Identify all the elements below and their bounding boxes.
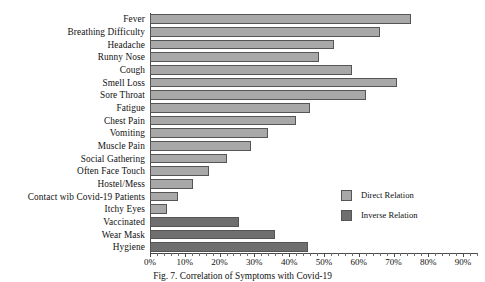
legend-label: Inverse Relation	[361, 210, 418, 220]
x-tick-minor	[240, 253, 241, 256]
category-label-row: Chest Pain	[0, 114, 148, 127]
category-axis-labels: FeverBreathing DifficultyHeadacheRunny N…	[0, 13, 148, 254]
x-tick-minor	[449, 253, 450, 256]
category-label-row: Smell Loss	[0, 76, 148, 89]
category-label-row: Itchy Eyes	[0, 203, 148, 216]
category-label-row: Vomiting	[0, 127, 148, 140]
x-tick-minor	[400, 253, 401, 256]
x-tick-label: 30%	[246, 257, 263, 267]
legend-swatch	[341, 190, 352, 201]
x-tick-minor	[435, 253, 436, 256]
bar-row	[150, 241, 477, 254]
bar	[150, 192, 178, 202]
bar-row	[150, 152, 477, 165]
x-tick-label: 70%	[385, 257, 402, 267]
category-label: Breathing Difficulty	[68, 27, 145, 37]
category-label-row: Fever	[0, 13, 148, 26]
x-tick-minor	[296, 253, 297, 256]
x-tick-minor	[233, 253, 234, 256]
category-label-row: Wear Mask	[0, 228, 148, 241]
bar	[150, 166, 209, 176]
category-label: Often Face Touch	[77, 166, 145, 176]
category-label-row: Hostel/Mess	[0, 178, 148, 191]
category-label: Vomiting	[110, 128, 145, 138]
category-label: Cough	[120, 65, 145, 75]
x-tick-minor	[282, 253, 283, 256]
category-label-row: Headache	[0, 38, 148, 51]
bar	[150, 27, 380, 37]
x-tick-label: 80%	[420, 257, 437, 267]
x-tick-label: 50%	[316, 257, 333, 267]
x-tick-minor	[331, 253, 332, 256]
x-tick-minor	[345, 253, 346, 256]
x-tick-minor	[338, 253, 339, 256]
x-tick-minor	[373, 253, 374, 256]
bar-row	[150, 64, 477, 77]
bar-row	[150, 102, 477, 115]
x-tick-minor	[414, 253, 415, 256]
x-tick-label: 20%	[211, 257, 228, 267]
category-label-row: Muscle Pain	[0, 140, 148, 153]
bar	[150, 90, 366, 100]
x-tick-minor	[199, 253, 200, 256]
legend-swatch	[341, 210, 352, 221]
bar	[150, 52, 319, 62]
category-label-row: Often Face Touch	[0, 165, 148, 178]
category-label: Hostel/Mess	[97, 179, 145, 189]
category-label: Contact wib Covid-19 Patients	[28, 192, 145, 202]
x-tick-label: 40%	[281, 257, 298, 267]
x-tick-label: 90%	[455, 257, 472, 267]
bar	[150, 14, 411, 24]
x-tick-minor	[268, 253, 269, 256]
x-tick-minor	[352, 253, 353, 256]
category-label: Fatigue	[116, 103, 145, 113]
bar	[150, 141, 251, 151]
bar	[150, 116, 296, 126]
category-label-row: Contact wib Covid-19 Patients	[0, 190, 148, 203]
bar	[150, 40, 334, 50]
bar	[150, 154, 227, 164]
bar-row	[150, 51, 477, 64]
legend-label: Direct Relation	[361, 190, 414, 200]
bar-row	[150, 140, 477, 153]
x-tick-minor	[303, 253, 304, 256]
bar	[150, 242, 308, 252]
category-label: Chest Pain	[104, 116, 145, 126]
x-tick-label: 0%	[144, 257, 156, 267]
legend-item: Direct Relation	[341, 185, 461, 205]
bar-row	[150, 13, 477, 26]
category-label: Headache	[108, 40, 145, 50]
x-tick-minor	[192, 253, 193, 256]
x-tick-minor	[275, 253, 276, 256]
x-tick-minor	[206, 253, 207, 256]
x-tick-minor	[421, 253, 422, 256]
figure-container: FeverBreathing DifficultyHeadacheRunny N…	[0, 0, 485, 282]
x-tick-minor	[261, 253, 262, 256]
category-label: Fever	[123, 14, 145, 24]
category-label-row: Social Gathering	[0, 152, 148, 165]
x-tick-minor	[227, 253, 228, 256]
bar	[150, 204, 167, 214]
bar	[150, 230, 275, 240]
figure-caption: Fig. 7. Correlation of Symptoms with Cov…	[0, 271, 485, 281]
category-label-row: Fatigue	[0, 102, 148, 115]
category-label-row: Breathing Difficulty	[0, 26, 148, 39]
x-tick-minor	[164, 253, 165, 256]
x-tick-minor	[456, 253, 457, 256]
category-label-row: Cough	[0, 64, 148, 77]
chart-legend: Direct RelationInverse Relation	[341, 185, 461, 225]
bar-row	[150, 89, 477, 102]
x-tick-label: 10%	[177, 257, 194, 267]
bar	[150, 179, 193, 189]
category-label-row: Vaccinated	[0, 216, 148, 229]
category-label: Itchy Eyes	[105, 204, 146, 214]
category-label: Muscle Pain	[98, 141, 145, 151]
category-label: Runny Nose	[98, 52, 145, 62]
x-tick-minor	[366, 253, 367, 256]
category-label: Sore Throat	[100, 90, 145, 100]
bar	[150, 128, 268, 138]
bar-row	[150, 127, 477, 140]
bar	[150, 217, 239, 227]
x-tick-minor	[442, 253, 443, 256]
x-tick-label: 60%	[350, 257, 367, 267]
